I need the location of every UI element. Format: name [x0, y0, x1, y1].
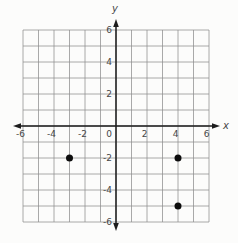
- y-tick-label: 6: [106, 25, 112, 35]
- y-tick-label: -4: [103, 185, 112, 195]
- y-axis-arrow-down: [113, 223, 119, 231]
- data-point: [175, 155, 182, 162]
- coordinate-plane: -6-4-20246642-2-4-6xy: [0, 0, 238, 243]
- y-axis-arrow-up: [113, 19, 119, 27]
- data-points: [66, 155, 182, 210]
- axes: [16, 22, 217, 228]
- y-tick-label: -2: [103, 153, 112, 163]
- y-tick-label: -6: [103, 217, 112, 227]
- x-axis-arrow-right: [212, 123, 220, 129]
- x-tick-label: 2: [142, 129, 148, 139]
- x-tick-label: 4: [173, 129, 179, 139]
- data-point: [66, 155, 73, 162]
- x-tick-label: -4: [47, 129, 56, 139]
- x-tick-label: -2: [78, 129, 87, 139]
- x-tick-labels: -6-4-20246: [16, 129, 210, 139]
- grid-plot: -6-4-20246642-2-4-6xy: [0, 0, 238, 243]
- data-point: [175, 203, 182, 210]
- y-tick-label: 2: [106, 89, 112, 99]
- x-axis-label: x: [222, 120, 229, 131]
- x-tick-label: -6: [16, 129, 25, 139]
- x-tick-label: 0: [106, 129, 112, 139]
- y-tick-label: 4: [106, 57, 112, 67]
- y-axis-label: y: [111, 3, 119, 14]
- x-tick-label: 6: [204, 129, 210, 139]
